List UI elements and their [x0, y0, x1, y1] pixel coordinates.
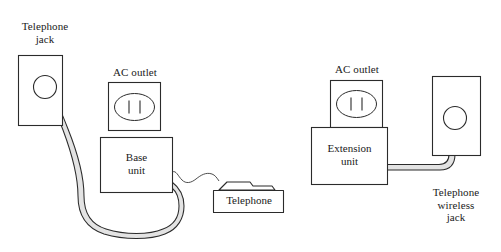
telephone-wireless-jack-port: [444, 107, 467, 130]
telephone-handset: [219, 182, 275, 190]
label-ac-outlet-left: AC outlet: [92, 66, 178, 79]
label-extension-unit: Extension unit: [311, 142, 388, 168]
cord-base-unit-to-telephone: [173, 172, 220, 183]
label-telephone-wireless-jack: Telephone wireless jack: [411, 186, 501, 224]
label-telephone: Telephone: [214, 194, 284, 207]
ac-outlet-left-face: [115, 94, 155, 121]
label-ac-outlet-right: AC outlet: [314, 63, 400, 76]
ac-outlet-right-face: [337, 91, 377, 118]
telephone-jack-port: [34, 76, 57, 99]
label-base-unit: Base unit: [100, 151, 173, 177]
telephone-system-diagram: Telephone jack AC outlet Base unit Telep…: [0, 0, 501, 252]
label-telephone-jack: Telephone jack: [0, 20, 90, 45]
